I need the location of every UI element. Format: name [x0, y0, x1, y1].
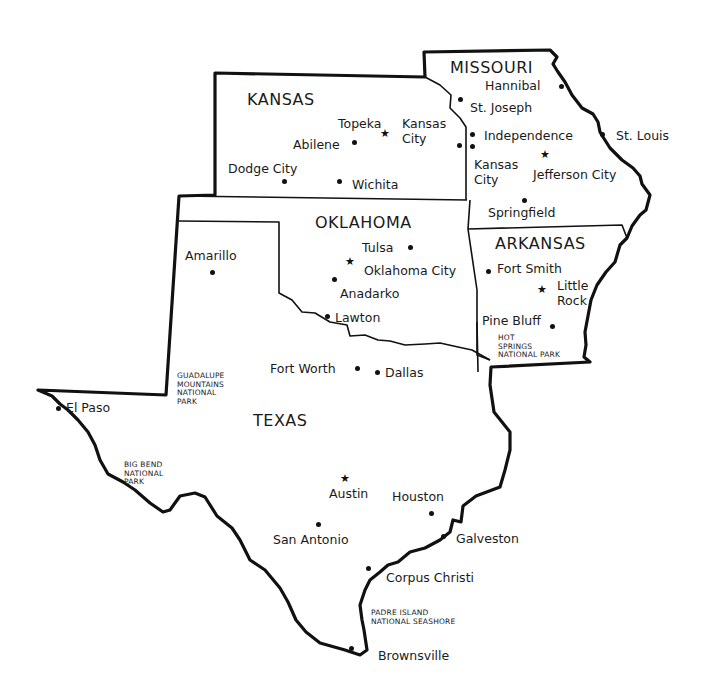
state-label-kansas: KANSAS: [247, 90, 315, 109]
park-label-padre-island-national-seashore: PADRE ISLAND NATIONAL SEASHORE: [371, 609, 455, 626]
city-dot-icon: [210, 270, 215, 275]
city-label-st-joseph: St. Joseph: [470, 100, 532, 115]
capital-star-icon: ★: [540, 149, 550, 160]
city-label-el-paso: El Paso: [66, 400, 110, 415]
city-label-corpus-christi: Corpus Christi: [386, 570, 474, 585]
city-label-st-louis: St. Louis: [616, 128, 669, 143]
city-label-springfield: Springfield: [488, 205, 555, 220]
city-dot-icon: [408, 245, 413, 250]
city-dot-icon: [559, 84, 564, 89]
city-dot-icon: [522, 198, 527, 203]
city-label-anadarko: Anadarko: [340, 286, 399, 301]
city-label-fort-smith: Fort Smith: [497, 261, 562, 276]
capital-star-icon: ★: [340, 473, 350, 484]
city-dot-icon: [366, 566, 371, 571]
state-label-arkansas: ARKANSAS: [495, 234, 586, 253]
capital-star-icon: ★: [537, 284, 547, 295]
city-dot-icon: [282, 179, 287, 184]
park-label-guadalupe-mountains-national-park: GUADALUPE MOUNTAINS NATIONAL PARK: [177, 372, 225, 406]
city-dot-icon: [441, 534, 446, 539]
city-label-lawton: Lawton: [335, 310, 380, 325]
city-label-independence: Independence: [484, 128, 573, 143]
city-label-austin: Austin: [329, 486, 368, 501]
city-dot-icon: [550, 324, 555, 329]
city-label-kansas-city: Kansas City: [474, 157, 518, 187]
city-dot-icon: [375, 370, 380, 375]
city-dot-icon: [316, 522, 321, 527]
ok-tx-panhandle-border: [179, 221, 490, 360]
city-dot-icon: [457, 143, 462, 148]
city-dot-icon: [56, 406, 61, 411]
city-dot-icon: [470, 132, 475, 137]
city-label-jefferson-city: Jefferson City: [533, 167, 616, 182]
city-label-dodge-city: Dodge City: [228, 161, 297, 176]
city-label-dallas: Dallas: [385, 365, 423, 380]
ar-south-border: [477, 322, 478, 372]
city-dot-icon: [355, 366, 360, 371]
state-label-texas: TEXAS: [253, 411, 307, 430]
state-label-oklahoma: OKLAHOMA: [315, 213, 412, 232]
park-label-hot-springs-national-park: HOT SPRINGS NATIONAL PARK: [498, 334, 560, 360]
city-dot-icon: [486, 269, 491, 274]
city-label-wichita: Wichita: [352, 177, 398, 192]
city-dot-icon: [600, 132, 605, 137]
city-label-topeka: Topeka: [338, 116, 381, 131]
city-dot-icon: [332, 277, 337, 282]
capital-star-icon: ★: [380, 128, 390, 139]
city-dot-icon: [337, 179, 342, 184]
south-central-states-map: [0, 0, 714, 696]
city-label-amarillo: Amarillo: [185, 248, 237, 263]
city-dot-icon: [429, 511, 434, 516]
city-label-hannibal: Hannibal: [485, 78, 540, 93]
city-dot-icon: [470, 144, 475, 149]
city-label-brownsville: Brownsville: [378, 648, 449, 663]
city-label-pine-bluff: Pine Bluff: [482, 313, 541, 328]
city-dot-icon: [458, 97, 463, 102]
city-label-fort-worth: Fort Worth: [270, 361, 336, 376]
city-label-san-antonio: San Antonio: [273, 532, 349, 547]
city-label-houston: Houston: [392, 489, 444, 504]
city-label-kansas-city: Kansas City: [402, 116, 446, 146]
city-label-tulsa: Tulsa: [362, 240, 393, 255]
ks-ok-border: [179, 196, 467, 200]
city-label-abilene: Abilene: [293, 137, 340, 152]
city-label-little-rock: Little Rock: [557, 278, 588, 308]
capital-star-icon: ★: [345, 256, 355, 267]
city-label-oklahoma-city: Oklahoma City: [364, 263, 456, 278]
city-dot-icon: [325, 314, 330, 319]
state-label-missouri: MISSOURI: [450, 58, 533, 77]
city-label-galveston: Galveston: [456, 531, 519, 546]
city-dot-icon: [349, 646, 354, 651]
city-dot-icon: [352, 140, 357, 145]
ok-ar-border: [468, 229, 490, 360]
park-label-big-bend-national-park: BIG BEND NATIONAL PARK: [124, 461, 163, 487]
